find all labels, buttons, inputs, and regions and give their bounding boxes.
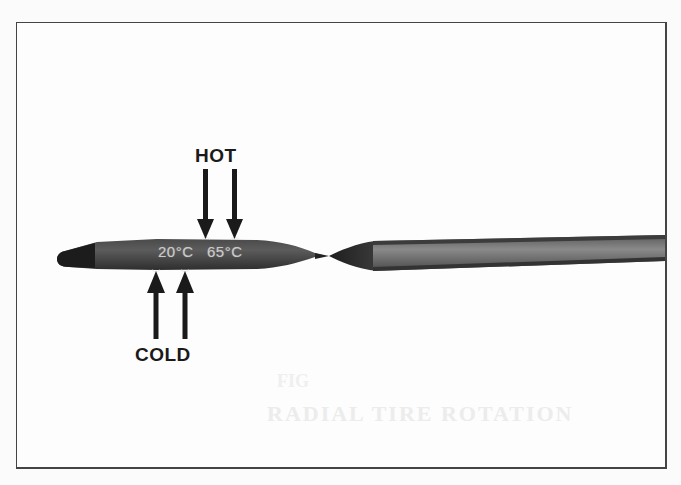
arrow-up-icon xyxy=(176,271,194,339)
dipstick-twist xyxy=(315,241,377,271)
cold-label: COLD xyxy=(135,344,191,366)
hot-arrows xyxy=(197,169,243,239)
cold-temperature-mark: 20°C xyxy=(158,243,194,260)
figure-frame: FIG RADIAL TIRE ROTATION xyxy=(16,22,667,469)
cold-arrows xyxy=(147,271,194,339)
arrow-up-icon xyxy=(147,271,165,339)
hot-label: HOT xyxy=(195,145,237,167)
arrow-down-icon xyxy=(197,169,214,239)
hot-temperature-mark: 65°C xyxy=(207,243,243,260)
dipstick-rod xyxy=(373,235,667,271)
arrow-down-icon xyxy=(226,169,243,239)
dipstick-illustration xyxy=(17,23,667,469)
